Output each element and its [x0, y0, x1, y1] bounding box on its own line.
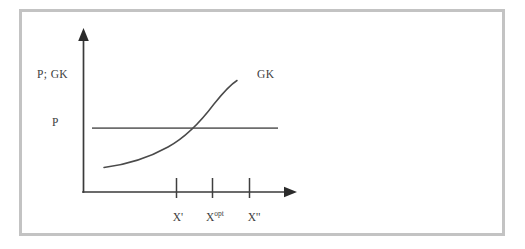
x-tick-label-1: Xopt [206, 209, 224, 223]
x-tick-label-2: X'' [248, 209, 260, 223]
price-line-label: P [52, 116, 59, 128]
gk-curve-label: GK [257, 68, 274, 80]
x-tick-label-0-base: X' [173, 211, 183, 223]
x-tick-label-2-base: X'' [248, 211, 260, 223]
y-axis-label: P; GK [37, 68, 68, 80]
x-tick-label-0: X' [173, 209, 183, 223]
figure-border-frame [19, 9, 505, 236]
x-tick-label-1-sup: opt [214, 209, 224, 218]
figure-root: P; GK P GK X' Xopt X'' [0, 0, 525, 249]
